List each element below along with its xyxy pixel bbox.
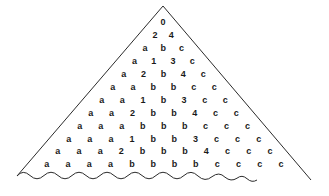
triangle-cell: c	[227, 132, 248, 146]
triangle-cell: c	[205, 106, 226, 120]
triangle-row: a13c	[125, 54, 202, 68]
triangle-cell: 3	[163, 54, 182, 68]
triangle-cell: b	[153, 93, 174, 107]
triangle-cell: a	[90, 144, 111, 158]
triangle-cell: c	[249, 157, 270, 171]
triangle-cell: 1	[133, 93, 154, 107]
triangle-row: aaa2bbb4ccc	[47, 144, 281, 158]
triangle-cell: b	[185, 157, 206, 171]
triangle-row: aaaabbbbcccc	[36, 157, 292, 171]
triangle-cell: a	[47, 144, 68, 158]
triangle-cell: b	[153, 67, 173, 81]
triangle-cell: 2	[134, 67, 154, 81]
triangle-cell: b	[121, 157, 142, 171]
triangle-cell: 2	[147, 28, 163, 42]
triangle-cell: c	[206, 157, 227, 171]
triangle-cell: a	[125, 54, 144, 68]
triangle-row: abc	[136, 41, 191, 55]
triangle-cell: b	[163, 80, 183, 94]
triangle-cell: a	[57, 157, 78, 171]
triangle-cell: c	[193, 67, 213, 81]
triangle-cell: 3	[185, 132, 206, 146]
triangle-cell: c	[216, 119, 237, 133]
triangle-cell: c	[228, 157, 249, 171]
triangle-row: aaa1bb3ccc	[58, 132, 269, 146]
triangle-row: aa2bb4cc	[80, 106, 246, 120]
triangle-cell: c	[270, 157, 291, 171]
triangle-cell: a	[69, 119, 90, 133]
triangle-cell: b	[153, 119, 174, 133]
triangle-cell: a	[100, 132, 121, 146]
triangle-cell: b	[174, 144, 195, 158]
triangle-row: aabbcc	[103, 80, 225, 94]
triangle-cell: a	[92, 93, 113, 107]
triangle-rows: 024abca13ca2b4caabbccaa1b3ccaa2bb4ccaaab…	[0, 0, 329, 196]
triangle-cell: b	[143, 106, 164, 120]
triangle-row: 0	[158, 15, 168, 29]
triangle-cell: c	[248, 132, 269, 146]
triangle-cell: 4	[163, 28, 179, 42]
triangle-cell: a	[100, 157, 121, 171]
triangle-cell: c	[226, 106, 247, 120]
triangle-cell: a	[136, 41, 154, 55]
triangle-row: a2b4c	[114, 67, 213, 81]
triangle-cell: c	[259, 144, 280, 158]
triangle-cell: 4	[196, 144, 217, 158]
triangle-cell: a	[90, 119, 111, 133]
triangle-cell: 2	[111, 144, 132, 158]
triangle-cell: b	[143, 80, 163, 94]
triangle-cell: a	[101, 106, 122, 120]
triangle-cell: a	[79, 157, 100, 171]
triangle-cell: a	[68, 144, 89, 158]
triangle-cell: a	[114, 67, 134, 81]
triangle-row: aaabbbccc	[69, 119, 258, 133]
triangle-cell: c	[217, 144, 238, 158]
triangle-cell: c	[183, 54, 202, 68]
triangle-cell: a	[79, 132, 100, 146]
triangle-cell: b	[143, 132, 164, 146]
triangle-cell: a	[112, 93, 133, 107]
triangle-cell: c	[195, 119, 216, 133]
triangle-cell: 4	[173, 67, 193, 81]
triangle-cell: c	[237, 119, 258, 133]
triangle-cell: b	[132, 119, 153, 133]
triangle-cell: c	[184, 80, 204, 94]
triangle-cell: 3	[174, 93, 195, 107]
triangle-cell: 2	[122, 106, 143, 120]
triangle-cell: c	[215, 93, 236, 107]
triangle-cell: a	[58, 132, 79, 146]
triangle-cell: 1	[144, 54, 163, 68]
triangle-cell: c	[194, 93, 215, 107]
triangle-figure: 024abca13ca2b4caabbccaa1b3ccaa2bb4ccaaab…	[0, 0, 329, 196]
triangle-cell: b	[132, 144, 153, 158]
triangle-cell: a	[36, 157, 57, 171]
triangle-cell: c	[206, 132, 227, 146]
triangle-cell: c	[172, 41, 190, 55]
triangle-row: 24	[147, 28, 179, 42]
triangle-cell: b	[153, 144, 174, 158]
triangle-cell: 4	[184, 106, 205, 120]
triangle-cell: 0	[158, 15, 168, 29]
triangle-cell: b	[174, 119, 195, 133]
triangle-cell: c	[204, 80, 224, 94]
triangle-cell: 1	[122, 132, 143, 146]
triangle-cell: b	[164, 132, 185, 146]
triangle-cell: c	[238, 144, 259, 158]
triangle-cell: b	[154, 41, 172, 55]
triangle-cell: a	[111, 119, 132, 133]
triangle-cell: b	[164, 106, 185, 120]
triangle-cell: b	[143, 157, 164, 171]
triangle-row: aa1b3cc	[92, 93, 236, 107]
triangle-cell: a	[103, 80, 123, 94]
triangle-cell: b	[164, 157, 185, 171]
triangle-cell: a	[123, 80, 143, 94]
triangle-cell: a	[80, 106, 101, 120]
